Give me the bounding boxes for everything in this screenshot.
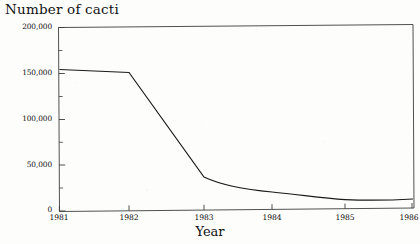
plot-area — [0, 0, 420, 244]
data-series-number-of-cacti — [60, 70, 414, 201]
chart-page: Number of cacti 200,000 150,000 100,000 … — [0, 0, 420, 244]
axes-frame — [59, 25, 415, 212]
